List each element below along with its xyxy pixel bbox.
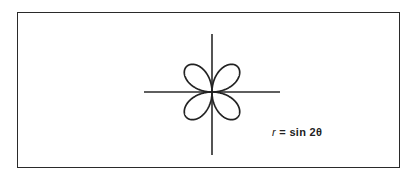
polar-plot: [0, 0, 413, 180]
equation-label: r = sin 2θ: [272, 126, 322, 138]
equation-rhs: sin 2θ: [289, 126, 322, 138]
equation-equals: =: [276, 126, 289, 138]
